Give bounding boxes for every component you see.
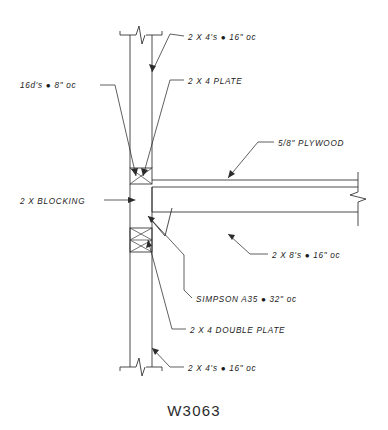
floor-assembly (152, 172, 366, 226)
annotation-label-plywood: 5/8" PLYWOOD (278, 139, 344, 148)
construction-detail-drawing: 2 X 4's ● 16" oc 16d's ● 8" oc 2 X 4 PLA… (0, 0, 388, 430)
annotation-label-joists: 2 X 8's ● 16" oc (271, 251, 340, 260)
annotation-label-blocking: 2 X BLOCKING (19, 197, 85, 206)
drawing-number-title: W3063 (167, 402, 221, 419)
annotation-label-double-plate: 2 X 4 DOUBLE PLATE (189, 326, 285, 335)
break-line-bottom-icon (120, 358, 162, 376)
wall-assembly (120, 26, 162, 376)
annotation-label-top-studs: 2 X 4's ● 16" oc (187, 33, 256, 42)
annotation-label-simpson: SIMPSON A35 ● 32" oc (196, 295, 297, 304)
annotation-leaders (100, 34, 274, 367)
annotation-label-bottom-studs: 2 X 4's ● 16" oc (187, 364, 256, 373)
blocking-lower (130, 228, 152, 252)
annotation-label-nails: 16d's ● 8" oc (20, 81, 76, 90)
annotation-label-plate: 2 X 4 PLATE (187, 77, 242, 86)
break-line-top-icon (120, 26, 162, 44)
